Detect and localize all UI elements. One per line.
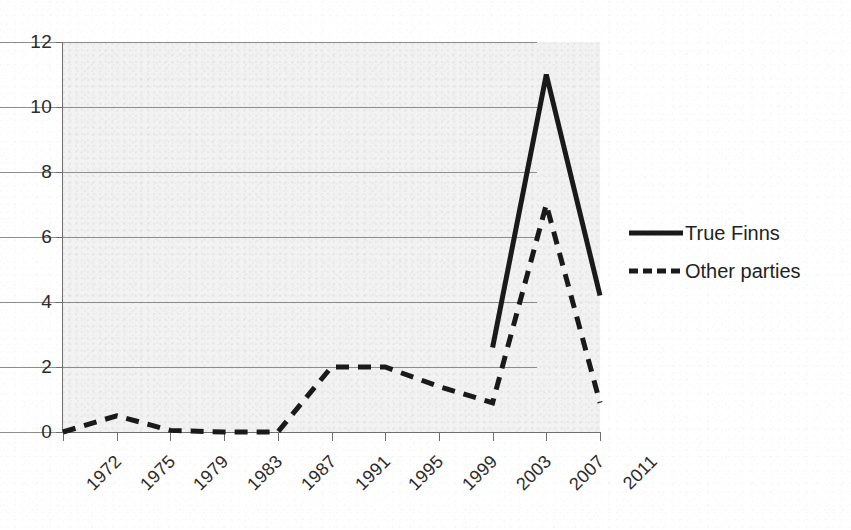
x-tick-label-1972: 1972 xyxy=(83,452,125,494)
legend-label-true-finns: True Finns xyxy=(684,223,780,243)
y-tick-mark-6 xyxy=(56,237,63,238)
x-tick-label-2011: 2011 xyxy=(620,452,661,493)
x-tick-mark-1975 xyxy=(117,432,118,441)
x-tick-mark-2011 xyxy=(600,432,601,441)
x-tick-label-1995: 1995 xyxy=(405,452,447,494)
x-tick-label-1979: 1979 xyxy=(190,452,232,494)
x-tick-mark-1979 xyxy=(170,432,171,441)
y-tick-label-wrap: 12 xyxy=(0,32,52,51)
y-tick-label-12: 12 xyxy=(8,32,52,51)
y-tick-label-6: 6 xyxy=(8,227,52,246)
y-tick-label-wrap: 4 xyxy=(0,292,52,311)
x-tick-mark-1999 xyxy=(439,432,440,441)
x-tick-mark-1995 xyxy=(385,432,386,441)
x-tick-label-2003: 2003 xyxy=(513,452,555,494)
y-tick-mark-0 xyxy=(56,432,63,433)
y-tick-label-2: 2 xyxy=(8,357,52,376)
y-tick-mark-10 xyxy=(56,107,63,108)
solid-line-swatch xyxy=(628,226,684,240)
y-tick-label-10: 10 xyxy=(8,97,52,116)
data-series-group xyxy=(63,42,600,432)
y-tick-label-wrap: 2 xyxy=(0,357,52,376)
y-tick-label-wrap: 10 xyxy=(0,97,52,116)
x-tick-label-1999: 1999 xyxy=(459,452,501,494)
chart-legend: True Finns Other parties xyxy=(628,214,843,290)
legend-label-other-parties: Other parties xyxy=(684,261,801,281)
dashed-line-swatch xyxy=(628,264,684,278)
y-tick-label-wrap: 0 xyxy=(0,422,52,441)
x-tick-mark-1991 xyxy=(332,432,333,441)
y-tick-mark-4 xyxy=(56,302,63,303)
x-tick-label-1983: 1983 xyxy=(244,452,286,494)
y-tick-label-4: 4 xyxy=(8,292,52,311)
y-tick-mark-12 xyxy=(56,42,63,43)
y-tick-mark-8 xyxy=(56,172,63,173)
x-tick-label-1975: 1975 xyxy=(137,452,179,494)
x-tick-mark-1987 xyxy=(278,432,279,441)
line-chart-figure: 121086420 197219751979198319871991199519… xyxy=(0,0,851,530)
legend-item-other-parties: Other parties xyxy=(628,252,843,290)
series-line-other-parties xyxy=(63,205,600,433)
y-tick-mark-2 xyxy=(56,367,63,368)
legend-item-true-finns: True Finns xyxy=(628,214,843,252)
x-tick-label-1987: 1987 xyxy=(298,452,340,494)
x-tick-mark-2003 xyxy=(493,432,494,441)
y-tick-label-0: 0 xyxy=(8,422,52,441)
x-tick-label-1991: 1991 xyxy=(351,452,393,494)
x-tick-label-2007: 2007 xyxy=(566,452,608,494)
y-tick-label-wrap: 8 xyxy=(0,162,52,181)
x-tick-mark-2007 xyxy=(546,432,547,441)
y-tick-label-8: 8 xyxy=(8,162,52,181)
y-tick-label-wrap: 6 xyxy=(0,227,52,246)
